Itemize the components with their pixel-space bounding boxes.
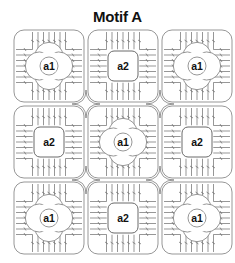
motif-label-a1: a1 bbox=[190, 61, 204, 72]
motif-label-a1: a1 bbox=[42, 61, 56, 72]
motif-label-a2: a2 bbox=[116, 213, 130, 224]
motif-label-a2: a2 bbox=[116, 61, 130, 72]
diagram-title: Motif A bbox=[0, 8, 235, 25]
motif-label-a1: a1 bbox=[116, 137, 130, 148]
crochet-chart: a1a2a1a2a1a2a1a2a1 bbox=[12, 28, 234, 256]
motif-label-a2: a2 bbox=[42, 137, 56, 148]
motif-label-a1: a1 bbox=[42, 213, 56, 224]
motif-label-a2: a2 bbox=[190, 137, 204, 148]
motif-label-a1: a1 bbox=[190, 213, 204, 224]
